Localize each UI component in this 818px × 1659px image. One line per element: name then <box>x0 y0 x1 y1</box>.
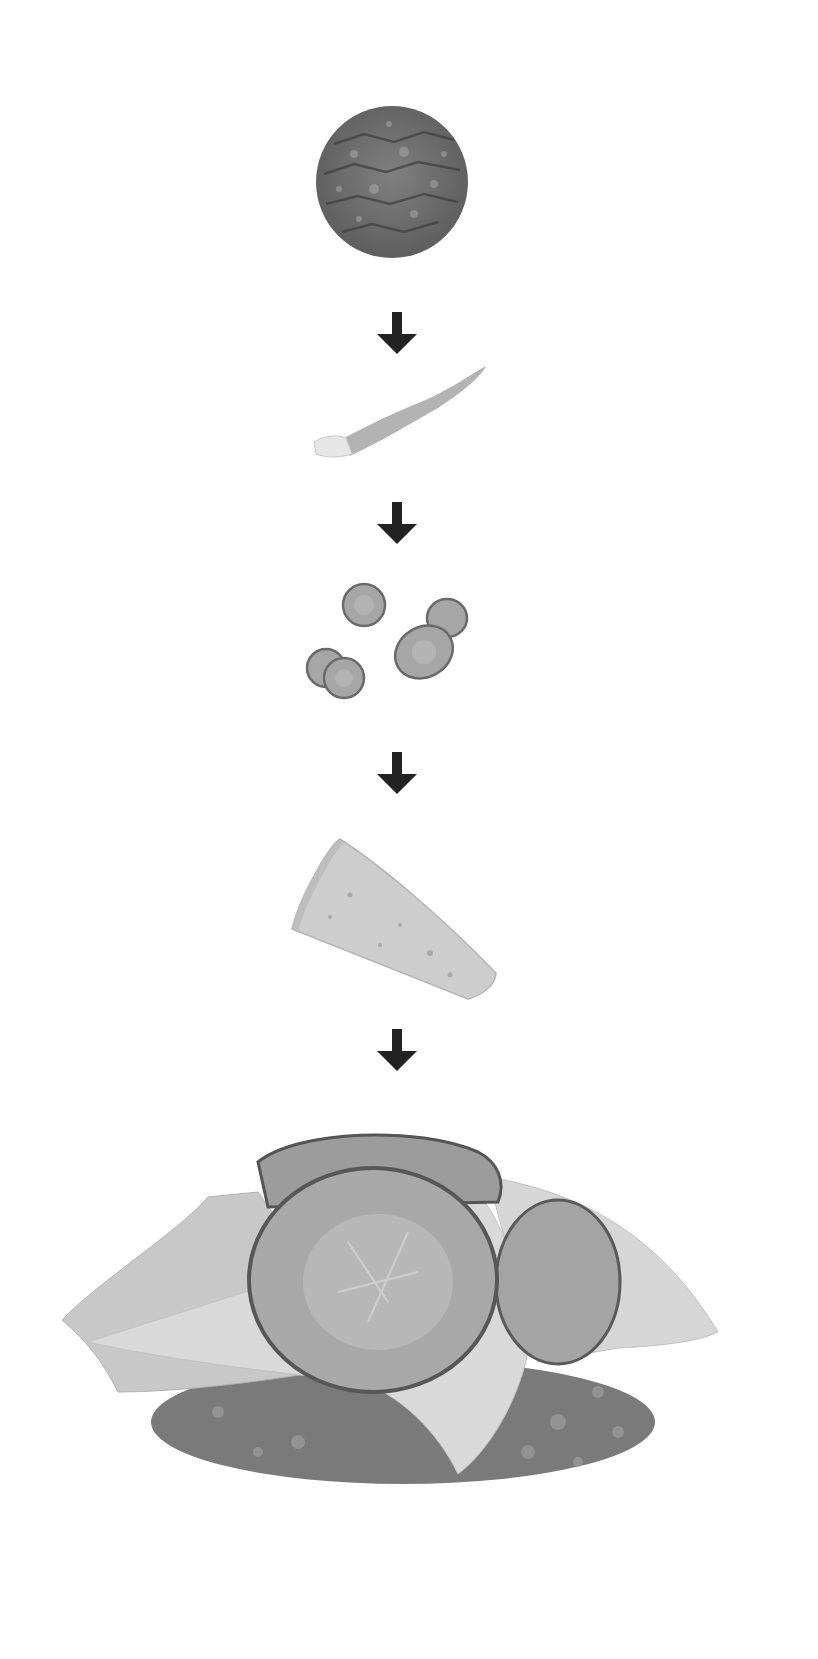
step-butter-knife: Butter knife <box>310 362 490 462</box>
step-cucumber-slices: Cucumber slices <box>300 580 480 700</box>
butter-knife-icon <box>310 362 490 462</box>
arrow-down-icon <box>377 312 417 354</box>
cucumber-slices-icon <box>300 580 480 700</box>
step-finished-sandwich: Finished sandwich <box>58 1122 728 1492</box>
step-crispbread: Crispbread <box>314 104 470 260</box>
crispbread-icon <box>314 104 470 260</box>
step-cheese-wedge: Cheese wedge <box>290 835 500 1005</box>
finished-sandwich-icon <box>58 1122 728 1492</box>
arrow-down-icon <box>377 502 417 544</box>
arrow-down-icon <box>377 1029 417 1071</box>
cheese-wedge-icon <box>290 835 500 1005</box>
arrow-down-icon <box>377 752 417 794</box>
